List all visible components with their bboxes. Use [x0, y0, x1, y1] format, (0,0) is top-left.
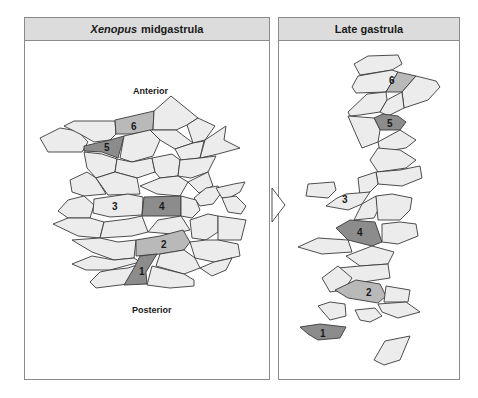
cell-1-label: 1 — [139, 266, 145, 277]
midgastrula-cells — [40, 96, 246, 288]
late-cell-6-label: 6 — [389, 75, 395, 86]
cell-4-label: 4 — [159, 201, 165, 212]
late-cell-2-label: 2 — [366, 287, 372, 298]
cell-diagram: 6 5 3 4 2 1 — [0, 0, 478, 398]
late-cell-1-label: 1 — [320, 328, 326, 339]
late-cell-4-label: 4 — [357, 227, 363, 238]
arrow-icon — [272, 188, 285, 222]
cell-2-label: 2 — [161, 239, 167, 250]
late-cell-5-label: 5 — [387, 118, 393, 129]
cell-3-label: 3 — [112, 201, 118, 212]
cell-6-label: 6 — [131, 121, 137, 132]
late-cell-3-label: 3 — [342, 194, 348, 205]
late-gastrula-cells — [298, 55, 440, 365]
cell-5-label: 5 — [104, 142, 110, 153]
